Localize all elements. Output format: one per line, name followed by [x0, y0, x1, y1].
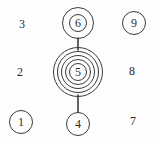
- node-2[interactable]: 2: [12, 64, 28, 80]
- node-label-7: 7: [130, 115, 136, 127]
- node-label-3: 3: [19, 18, 25, 30]
- node-4[interactable]: 4: [65, 111, 91, 137]
- node-8[interactable]: 8: [124, 63, 140, 79]
- node-label-5: 5: [75, 66, 81, 78]
- node-label-4: 4: [75, 118, 81, 130]
- node-9[interactable]: 9: [121, 10, 147, 36]
- node-label-2: 2: [17, 66, 23, 78]
- node-label-9: 9: [131, 17, 137, 29]
- node-label-1: 1: [18, 116, 24, 128]
- node-label-8: 8: [129, 65, 135, 77]
- diagram-canvas: 369258147: [0, 0, 160, 144]
- node-6[interactable]: 6: [61, 6, 95, 40]
- node-3[interactable]: 3: [14, 16, 30, 32]
- node-7[interactable]: 7: [125, 113, 141, 129]
- node-1[interactable]: 1: [8, 109, 34, 135]
- node-5[interactable]: 5: [52, 46, 104, 98]
- node-label-6: 6: [75, 17, 81, 29]
